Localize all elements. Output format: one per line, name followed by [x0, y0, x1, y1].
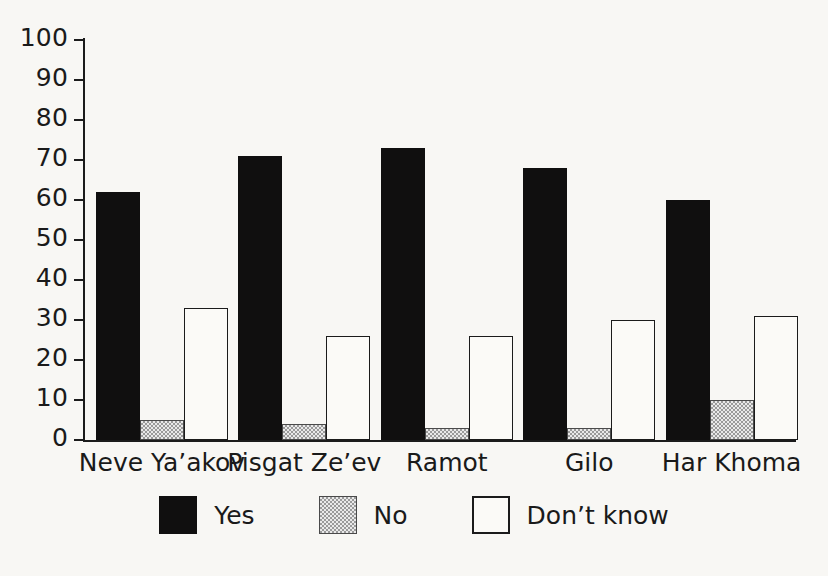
chart-legend: YesNoDon’t know — [0, 496, 828, 534]
y-axis-tick — [74, 399, 84, 401]
bar-no-ramot — [425, 428, 469, 440]
legend-item-yes: Yes — [159, 496, 254, 534]
y-axis-tick — [74, 159, 84, 161]
bar-no-pisgat-ze-ev — [282, 424, 326, 440]
legend-item-no: No — [319, 496, 408, 534]
gray-hatched-square-icon — [319, 496, 357, 534]
y-axis-tick-label: 70 — [0, 143, 68, 172]
y-axis-tick — [74, 239, 84, 241]
bar-don-t-know-neve-ya-akov — [184, 308, 228, 440]
y-axis-tick-label: 30 — [0, 303, 68, 332]
y-axis-tick-label: 50 — [0, 223, 68, 252]
bar-yes-gilo — [523, 168, 567, 440]
black-filled-square-icon — [159, 496, 197, 534]
legend-item-don-t-know: Don’t know — [472, 496, 669, 534]
y-axis-tick-label: 40 — [0, 263, 68, 292]
bar-yes-neve-ya-akov — [96, 192, 140, 440]
bar-yes-pisgat-ze-ev — [238, 156, 282, 440]
y-axis-tick-label: 10 — [0, 383, 68, 412]
bar-don-t-know-ramot — [469, 336, 513, 440]
y-axis-tick-label: 20 — [0, 343, 68, 372]
bar-yes-ramot — [381, 148, 425, 440]
legend-label: Yes — [214, 501, 254, 530]
white-outlined-square-icon — [472, 496, 510, 534]
bar-yes-har-khoma — [666, 200, 710, 440]
bar-don-t-know-har-khoma — [754, 316, 798, 440]
y-axis-tick — [74, 279, 84, 281]
bar-no-har-khoma — [710, 400, 754, 440]
bar-don-t-know-pisgat-ze-ev — [326, 336, 370, 440]
y-axis-tick — [74, 79, 84, 81]
y-axis-tick-label: 90 — [0, 63, 68, 92]
bar-chart: 1009080706050403020100 Neve Ya’akovPisga… — [0, 0, 828, 576]
y-axis-tick-label: 80 — [0, 103, 68, 132]
plot-area — [84, 40, 796, 440]
legend-label: Don’t know — [527, 501, 669, 530]
y-axis-tick-label: 100 — [0, 23, 68, 52]
bar-no-neve-ya-akov — [140, 420, 184, 440]
y-axis-tick — [74, 199, 84, 201]
bar-don-t-know-gilo — [611, 320, 655, 440]
y-axis-tick — [74, 359, 84, 361]
x-axis-label-har-khoma: Har Khoma — [602, 448, 828, 477]
y-axis-tick — [74, 439, 84, 441]
y-axis-tick — [74, 119, 84, 121]
x-axis-line — [83, 440, 796, 442]
bar-no-gilo — [567, 428, 611, 440]
y-axis-tick — [74, 319, 84, 321]
y-axis-tick-label: 60 — [0, 183, 68, 212]
legend-label: No — [374, 501, 408, 530]
y-axis-tick — [74, 39, 84, 41]
